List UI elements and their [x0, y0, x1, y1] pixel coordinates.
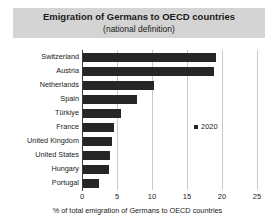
- bar-france: [82, 123, 114, 132]
- x-tick-label: 15: [183, 192, 191, 201]
- category-label: Austria: [3, 64, 79, 78]
- y-axis-line: [82, 50, 83, 191]
- bar-austria: [82, 67, 214, 76]
- bar-row: [82, 134, 112, 148]
- bar-row: [82, 92, 137, 106]
- category-label: France: [3, 120, 79, 134]
- category-label: Hungary: [3, 162, 79, 176]
- category-label: Spain: [3, 92, 79, 106]
- x-tick-label: 25: [253, 192, 261, 201]
- x-tick-label: 10: [148, 192, 156, 201]
- x-axis-label: % of total emigration of Germans to OECD…: [0, 206, 275, 215]
- x-tick-label: 20: [218, 192, 226, 201]
- gridline: [222, 50, 223, 190]
- bar-spain: [82, 95, 137, 104]
- bar-portugal: [82, 179, 99, 188]
- bar-switzerland: [82, 53, 216, 62]
- legend-label: 2020: [201, 123, 218, 131]
- bar-hungary: [82, 165, 109, 174]
- plot-area: [82, 50, 257, 190]
- category-label: Türkiye: [3, 106, 79, 120]
- chart-figure: Emigration of Germans to OECD countries …: [0, 0, 275, 224]
- gridline: [257, 50, 258, 190]
- x-tick-label: 0: [80, 192, 84, 201]
- category-axis-labels: SwitzerlandAustriaNetherlandsSpainTürkiy…: [0, 50, 79, 190]
- chart-title-band: Emigration of Germans to OECD countries …: [13, 8, 265, 38]
- value-axis-ticks: 0510152025: [82, 192, 257, 204]
- bar-row: [82, 176, 99, 190]
- x-tick-label: 5: [115, 192, 119, 201]
- category-label: Netherlands: [3, 78, 79, 92]
- bar-row: [82, 64, 214, 78]
- category-label: Portugal: [3, 176, 79, 190]
- bar-row: [82, 120, 114, 134]
- bar-row: [82, 148, 110, 162]
- bar-row: [82, 78, 154, 92]
- category-label: United Kingdom: [3, 134, 79, 148]
- bar-türkiye: [82, 109, 121, 118]
- bar-row: [82, 106, 121, 120]
- category-label: Switzerland: [3, 50, 79, 64]
- chart-subtitle: (national definition): [103, 23, 175, 35]
- bar-united-kingdom: [82, 137, 112, 146]
- bar-united-states: [82, 151, 110, 160]
- legend-square-marker: [194, 125, 198, 129]
- bar-netherlands: [82, 81, 154, 90]
- chart-title: Emigration of Germans to OECD countries: [43, 11, 235, 23]
- chart-legend: 2020: [194, 123, 218, 131]
- category-label: United States: [3, 148, 79, 162]
- bar-row: [82, 162, 109, 176]
- bar-row: [82, 50, 216, 64]
